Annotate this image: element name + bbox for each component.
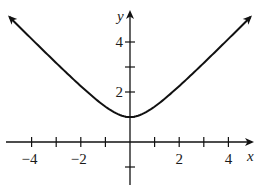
y-tick-label: 4 (116, 34, 124, 50)
function-graph: −4−224 24 x y (0, 0, 256, 185)
y-axis: 24 (116, 12, 136, 185)
x-tick-label: −2 (71, 151, 87, 167)
x-tick-label: 2 (175, 151, 183, 167)
y-axis-label: y (115, 8, 124, 24)
y-tick-label: 2 (116, 84, 124, 100)
x-axis: −4−224 (6, 137, 252, 167)
x-tick-label: 4 (225, 151, 233, 167)
x-axis-label: x (246, 148, 254, 164)
x-tick-label: −4 (22, 151, 38, 167)
